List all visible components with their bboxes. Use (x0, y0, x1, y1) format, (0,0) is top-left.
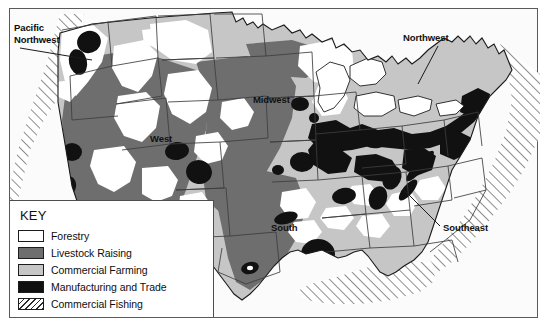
screenshot-root: Pacific Northwest Northwest Southeast We… (0, 0, 548, 328)
map-legend: KEY Forestry Livestock Raising Commercia… (10, 200, 214, 317)
legend-label-forestry: Forestry (51, 230, 89, 242)
legend-swatch-manufacturing-and-trade (18, 281, 44, 293)
legend-label-commercial-farming: Commercial Farming (51, 264, 148, 276)
legend-item-manufacturing-and-trade: Manufacturing and Trade (18, 279, 213, 295)
legend-label-commercial-fishing: Commercial Fishing (51, 298, 143, 310)
legend-label-manufacturing-and-trade: Manufacturing and Trade (51, 281, 167, 293)
legend-title: KEY (20, 208, 213, 223)
legend-item-commercial-farming: Commercial Farming (18, 262, 213, 278)
legend-swatch-livestock-raising (18, 247, 44, 259)
legend-swatch-commercial-farming (18, 264, 44, 276)
legend-swatch-forestry (18, 230, 44, 242)
legend-label-livestock-raising: Livestock Raising (51, 247, 132, 259)
legend-swatch-commercial-fishing (18, 298, 44, 310)
legend-item-livestock-raising: Livestock Raising (18, 245, 213, 261)
legend-item-forestry: Forestry (18, 228, 213, 244)
commercial-fishing-gulf (296, 262, 436, 304)
legend-item-commercial-fishing: Commercial Fishing (18, 296, 213, 312)
